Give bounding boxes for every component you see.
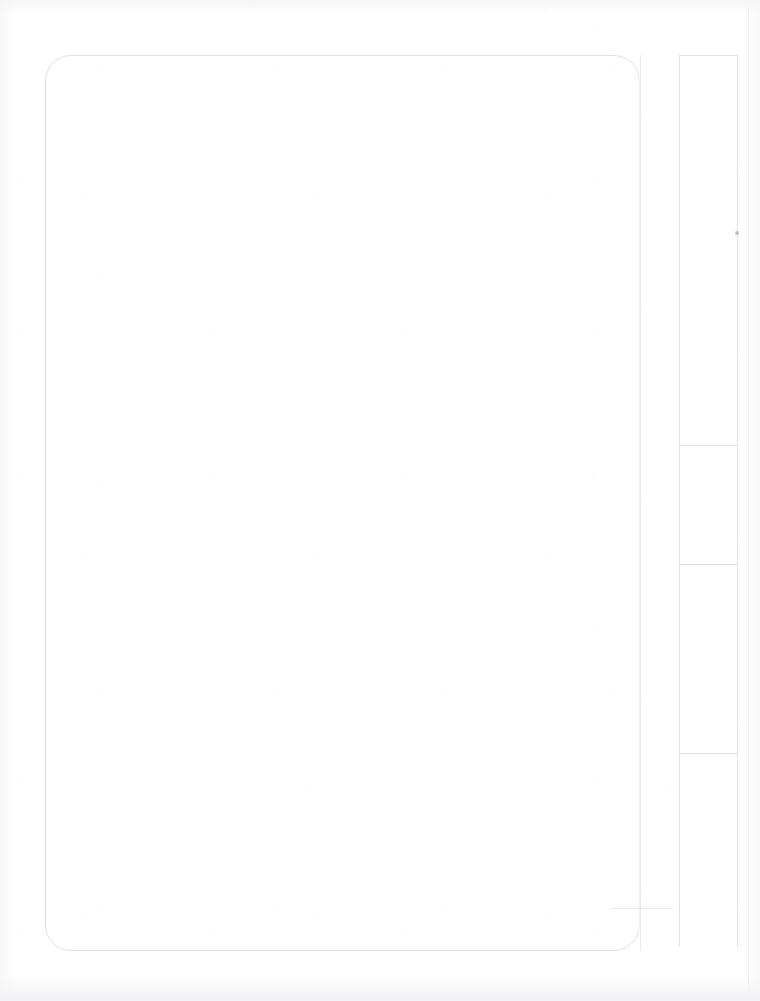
outer-margin-rule [748,8,749,993]
scanned-page [0,0,760,1001]
sidebar-section [680,445,737,564]
sidebar-column [679,55,738,947]
gutter-rule [640,55,641,951]
scan-artifact-speck [735,231,739,235]
main-content-body [46,56,639,950]
sidebar-section [680,753,737,948]
sidebar-section-divider [680,445,737,446]
main-content-frame [45,55,640,951]
document-body-area [80,90,605,916]
sidebar-section-divider [680,753,737,754]
sidebar-section-divider [680,564,737,565]
sidebar-section [680,56,737,445]
gutter-column [640,55,678,951]
scan-bottom-shadow-band [0,977,760,1001]
sidebar-section [680,564,737,753]
